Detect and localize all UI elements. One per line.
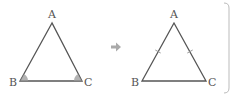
left-triangle-shape [20,23,82,81]
right-triangle: A B C [131,8,216,89]
isosceles-triangle-diagram: A B C A B C [0,0,234,98]
left-label-c: C [84,76,92,89]
left-label-b: B [9,76,17,89]
right-bracket [224,3,229,93]
right-arrow-icon [111,43,121,52]
right-label-b: B [131,76,139,89]
right-label-c: C [208,76,216,89]
left-label-a: A [47,8,57,21]
right-label-a: A [169,8,179,21]
left-triangle: A B C [9,8,92,89]
right-triangle-shape [142,23,206,81]
